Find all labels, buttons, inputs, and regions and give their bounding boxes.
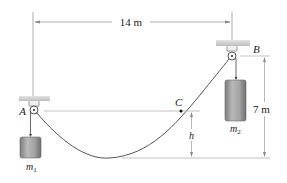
h-arrow-up (190, 112, 193, 117)
hook-m1-icon (29, 134, 32, 137)
support-B: B (216, 40, 260, 60)
sag-dimension: h (189, 112, 194, 157)
arrowhead-right (225, 21, 231, 24)
label-C: C (175, 96, 183, 108)
cable-pulley-diagram: 14 m A m1 B m2 C (0, 0, 287, 183)
mass-m2 (225, 80, 246, 121)
vertical-dimension: 7 m (253, 57, 270, 157)
support-A: A (18, 96, 50, 117)
cable (36, 59, 229, 158)
pulley-A-axle-icon (33, 109, 35, 111)
pulley-bracket-left (29, 101, 39, 106)
label-A: A (18, 105, 26, 117)
7m-arrow-down (263, 152, 266, 157)
label-m1: m1 (26, 161, 37, 174)
span-label: 14 m (120, 16, 143, 28)
mass-m2-group: m2 (225, 58, 246, 136)
mass-m1 (20, 137, 41, 158)
ceiling-right (216, 40, 250, 46)
pulley-B-axle-icon (231, 55, 233, 57)
vertical-span-label: 7 m (253, 103, 270, 115)
hook-m2-icon (235, 77, 238, 80)
pulley-bracket-right (227, 46, 237, 51)
horizontal-dimension: 14 m (33, 12, 232, 96)
point-C-marker (180, 110, 183, 113)
h-arrow-down (190, 152, 193, 157)
ceiling-left (19, 96, 50, 101)
7m-arrow-up (263, 57, 266, 62)
h-label: h (189, 130, 194, 141)
label-m2: m2 (230, 123, 241, 136)
mass-m1-group: m1 (20, 112, 41, 174)
label-B: B (253, 43, 260, 55)
arrowhead-left (34, 21, 40, 24)
